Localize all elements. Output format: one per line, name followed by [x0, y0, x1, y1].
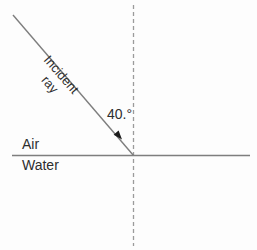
water-medium-label: Water [22, 157, 59, 173]
diagram-canvas [0, 0, 257, 250]
refraction-diagram: Incident ray 40.° Air Water [0, 0, 257, 250]
air-medium-label: Air [22, 136, 39, 152]
angle-of-incidence-label: 40.° [107, 106, 132, 122]
